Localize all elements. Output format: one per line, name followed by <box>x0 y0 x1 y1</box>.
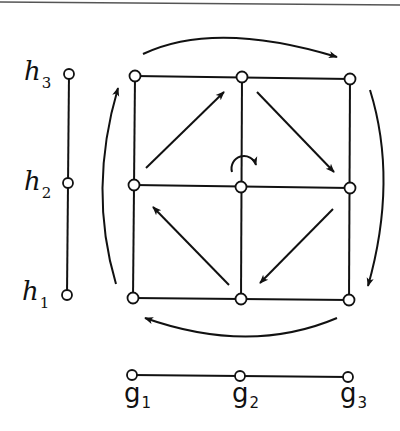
arrow-outer-top <box>143 38 337 57</box>
arrow-outer-left <box>102 88 118 284</box>
node-g3-h1 <box>344 295 355 306</box>
h3-node <box>64 69 74 79</box>
h1-node <box>62 290 72 300</box>
h2-node <box>63 178 73 188</box>
h2-label: h2 <box>24 166 51 202</box>
rotation-grid-diagram: h3 h2 h1 g1 g2 g3 <box>0 0 400 431</box>
g2-label: g2 <box>232 378 259 412</box>
node-g1-h2 <box>129 180 140 191</box>
arrow-outer-right <box>368 90 384 286</box>
node-g2-h2 <box>236 182 247 193</box>
arrow-outer-bottom <box>145 318 337 337</box>
node-g3-h2 <box>345 183 356 194</box>
node-g2-h1 <box>236 294 247 305</box>
node-g1-h1 <box>128 293 139 304</box>
g3-label: g3 <box>340 378 367 412</box>
node-g3-h3 <box>345 74 356 85</box>
node-g1-h3 <box>130 71 141 82</box>
top-border-line <box>0 2 400 5</box>
rotation-icon <box>231 156 256 172</box>
h1-label: h1 <box>22 276 49 312</box>
arrow-lower-right <box>260 209 333 283</box>
node-g2-h3 <box>237 72 248 83</box>
arrow-upper-left <box>146 92 224 168</box>
g1-label: g1 <box>124 378 151 412</box>
g-axis: g1 g2 g3 <box>124 370 367 412</box>
h-axis: h3 h2 h1 <box>22 56 74 312</box>
arrow-lower-left <box>153 207 229 285</box>
h3-label: h3 <box>24 56 51 92</box>
arrow-upper-right <box>257 92 334 172</box>
